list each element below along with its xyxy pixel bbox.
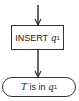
terminal-sub: 1 [54,84,57,90]
terminal-text: is in [29,82,45,92]
terminal-box: T is in q1 [2,77,76,97]
process-label: INSERT [15,33,48,43]
process-box: INSERT q1 [11,25,64,50]
process-sub: 1 [56,35,59,41]
terminal-var-t: T [21,82,27,92]
